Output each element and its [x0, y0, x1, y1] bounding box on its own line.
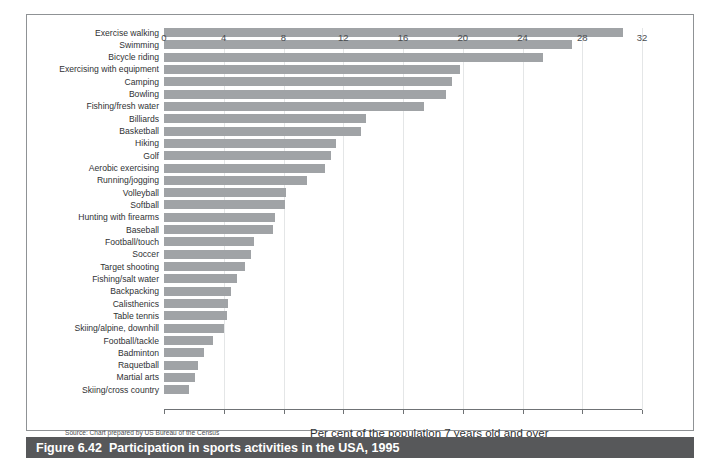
bar-row: Hiking [164, 139, 642, 148]
bar [164, 139, 336, 148]
x-axis-tick [224, 410, 225, 414]
bar-category-label: Fishing/salt water [92, 274, 159, 283]
bar [164, 188, 286, 197]
bar [164, 336, 213, 345]
x-axis-tick [642, 410, 643, 414]
x-axis-tick-label: 28 [577, 32, 588, 43]
bar [164, 28, 623, 37]
bar-row: Exercising with equipment [164, 65, 642, 74]
bar-category-label: Target shooting [100, 262, 159, 271]
bar [164, 53, 543, 62]
bar-row: Skiing/cross country [164, 385, 642, 394]
bar-category-label: Skiing/alpine, downhill [74, 324, 159, 333]
bar-row: Volleyball [164, 188, 642, 197]
bar-row: Soccer [164, 250, 642, 259]
bar-category-label: Exercising with equipment [59, 65, 159, 74]
bar-category-label: Skiing/cross country [82, 385, 159, 394]
bar-category-label: Bowling [129, 90, 159, 99]
bar-row: Golf [164, 151, 642, 160]
bar-category-label: Camping [125, 77, 159, 86]
bar [164, 151, 331, 160]
bar [164, 373, 195, 382]
bar [164, 114, 366, 123]
bar [164, 176, 307, 185]
bar [164, 200, 285, 209]
bar-row: Running/jogging [164, 176, 642, 185]
bar [164, 262, 245, 271]
figure-caption-bar: Figure 6.42 Participation in sports acti… [26, 437, 694, 458]
figure-caption-number: Figure 6.42 [36, 441, 102, 455]
x-axis-tick-label: 4 [221, 32, 226, 43]
bar [164, 237, 254, 246]
x-axis-tick [164, 410, 165, 414]
source-note: Source: Chart prepared by US Bureau of t… [65, 429, 219, 436]
bar-row: Badminton [164, 348, 642, 357]
bar-row: Football/tackle [164, 336, 642, 345]
bar-category-label: Backpacking [110, 287, 159, 296]
bar-category-label: Football/touch [105, 237, 159, 246]
bar-row: Baseball [164, 225, 642, 234]
x-axis-tick-label: 32 [637, 32, 648, 43]
x-axis-tick-label: 12 [338, 32, 349, 43]
bar-row: Calisthenics [164, 299, 642, 308]
bar-category-label: Softball [130, 200, 159, 209]
bar [164, 348, 204, 357]
bar-row: Martial arts [164, 373, 642, 382]
x-axis-tick-label: 0 [161, 32, 166, 43]
x-axis-tick-label: 8 [281, 32, 286, 43]
gridline [642, 28, 643, 410]
bar [164, 127, 361, 136]
x-axis-tick [403, 410, 404, 414]
bar-category-label: Baseball [126, 225, 159, 234]
bar [164, 274, 237, 283]
bar-category-label: Table tennis [113, 311, 159, 320]
bar-category-label: Raquetball [118, 361, 159, 370]
bar-row: Fishing/fresh water [164, 102, 642, 111]
bar-category-label: Hiking [135, 139, 159, 148]
bar-category-label: Aerobic exercising [89, 164, 159, 173]
bar-category-label: Golf [143, 151, 159, 160]
bar-row: Skiing/alpine, downhill [164, 324, 642, 333]
bar-category-label: Exercise walking [95, 28, 159, 37]
bar-category-label: Bicycle riding [108, 53, 159, 62]
bar-category-label: Swimming [119, 40, 159, 49]
figure-page: Exercise walkingSwimmingBicycle ridingEx… [0, 0, 721, 472]
bar-row: Backpacking [164, 287, 642, 296]
bar-category-label: Football/tackle [104, 336, 159, 345]
bar-category-label: Billiards [129, 114, 159, 123]
x-axis-tick-label: 24 [517, 32, 528, 43]
bar [164, 102, 424, 111]
plot-area: Exercise walkingSwimmingBicycle ridingEx… [164, 28, 642, 410]
chart-frame: Exercise walkingSwimmingBicycle ridingEx… [26, 14, 694, 431]
bar [164, 213, 275, 222]
bar-row: Hunting with firearms [164, 213, 642, 222]
bar [164, 225, 273, 234]
bar-row: Billiards [164, 114, 642, 123]
x-axis-tick [343, 410, 344, 414]
bar-category-label: Fishing/fresh water [86, 102, 159, 111]
bar-category-label: Basketball [119, 127, 159, 136]
bar [164, 65, 460, 74]
bar-category-label: Hunting with firearms [78, 213, 159, 222]
bar-category-label: Volleyball [123, 188, 159, 197]
figure-caption-text: Participation in sports activities in th… [109, 441, 399, 455]
bar-category-label: Soccer [132, 250, 159, 259]
bar [164, 361, 198, 370]
bar-row: Bicycle riding [164, 53, 642, 62]
bar-row: Bowling [164, 90, 642, 99]
bar [164, 311, 227, 320]
x-axis-tick [463, 410, 464, 414]
bar-row: Aerobic exercising [164, 164, 642, 173]
bar-row: Camping [164, 77, 642, 86]
bar-category-label: Badminton [118, 348, 159, 357]
bar [164, 324, 224, 333]
x-axis-tick [523, 410, 524, 414]
bar-category-label: Martial arts [117, 373, 160, 382]
bar [164, 90, 446, 99]
bar [164, 385, 189, 394]
x-axis-tick [284, 410, 285, 414]
bar [164, 299, 228, 308]
x-axis-tick-label: 20 [457, 32, 468, 43]
bar [164, 287, 231, 296]
bar-row: Target shooting [164, 262, 642, 271]
